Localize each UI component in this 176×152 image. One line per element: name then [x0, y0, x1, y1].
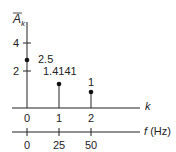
k-axis-label: k — [145, 101, 151, 112]
value-label-2: 1 — [88, 77, 94, 88]
y-tick-label-2: 2 — [13, 66, 19, 77]
point-1 — [57, 82, 62, 87]
k-tick-label-2: 2 — [88, 113, 94, 124]
y-axis-label: Ak — [13, 14, 25, 29]
value-label-1: 1.4141 — [43, 66, 77, 77]
f-axis-label: f (Hz) — [144, 126, 171, 137]
point-0 — [25, 58, 30, 63]
point-2 — [89, 90, 94, 95]
k-tick-label-0: 0 — [24, 113, 30, 124]
y-tick-label-4: 4 — [13, 38, 19, 49]
k-tick-label-1: 1 — [56, 113, 62, 124]
f-tick-label-25: 25 — [53, 140, 65, 151]
f-tick-label-50: 50 — [85, 140, 97, 151]
f-tick-label-0: 0 — [24, 140, 30, 151]
value-label-0: 2.5 — [38, 54, 53, 65]
